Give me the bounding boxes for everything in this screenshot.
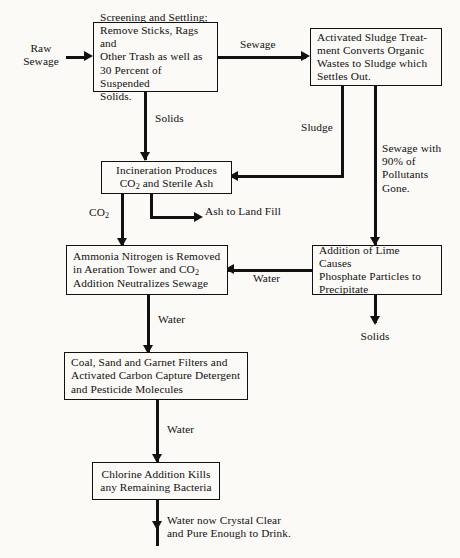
box-incineration-text: Incineration ProducesCO2 and Sterile Ash <box>102 164 231 191</box>
arrowhead-final-output <box>152 521 162 530</box>
box-activated-sludge[interactable]: Activated Sludge Treat- ment Converts Or… <box>310 28 442 86</box>
label-solids-from-lime: Solids <box>348 330 402 343</box>
box-ammonia-nitrogen[interactable]: Ammonia Nitrogen is Removedin Aeration T… <box>66 245 228 295</box>
connector-water-chlorine <box>156 400 159 462</box>
box-screening-and-settling[interactable]: Screening and Settling; Remove Sticks, R… <box>93 22 218 92</box>
box-chlorine[interactable]: Chlorine Addition Kills any Remaining Ba… <box>92 462 220 500</box>
arrowhead-ash <box>194 212 203 222</box>
connector-ash-horizontal <box>150 216 198 219</box>
flowchart-diagram: Screening and Settling; Remove Sticks, R… <box>0 0 460 558</box>
box-screening-text: Screening and Settling; Remove Sticks, R… <box>94 11 217 103</box>
box-chlorine-text: Chlorine Addition Kills any Remaining Ba… <box>93 468 219 494</box>
connector-sludge-vertical <box>341 86 344 178</box>
box-activated-sludge-text: Activated Sludge Treat- ment Converts Or… <box>311 31 441 84</box>
label-water-to-chlorine: Water <box>167 423 194 436</box>
arrowhead-raw-sewage <box>84 51 93 61</box>
connector-sewage <box>218 56 306 59</box>
label-solids-screening: Solids <box>155 112 184 125</box>
arrowhead-sewage <box>301 51 310 61</box>
connector-sewage90 <box>374 86 377 245</box>
box-lime-addition[interactable]: Addition of Lime Causes Phosphate Partic… <box>312 245 442 295</box>
label-water-to-filters: Water <box>158 313 185 326</box>
label-sewage-90-percent: Sewage with 90% of Pollutants Gone. <box>382 142 441 195</box>
label-raw-sewage: Raw Sewage <box>14 42 68 68</box>
box-filters[interactable]: Coal, Sand and Garnet Filters and Activa… <box>64 352 248 400</box>
arrowhead-solids-lime <box>370 316 380 325</box>
connector-sludge-horizontal <box>232 175 344 178</box>
arrowhead-solids-screening <box>140 152 150 161</box>
label-sewage: Sewage <box>240 38 276 51</box>
label-ash-to-land-fill: Ash to Land Fill <box>205 205 281 218</box>
label-water-from-lime: Water <box>253 272 280 285</box>
box-lime-text: Addition of Lime Causes Phosphate Partic… <box>313 244 441 297</box>
label-co2: CO2 <box>89 206 109 220</box>
box-ammonia-text: Ammonia Nitrogen is Removedin Aeration T… <box>67 250 227 291</box>
label-final-output: Water now Crystal Clear and Pure Enough … <box>167 514 291 540</box>
box-incineration[interactable]: Incineration ProducesCO2 and Sterile Ash <box>101 161 232 194</box>
box-filters-text: Coal, Sand and Garnet Filters and Activa… <box>65 356 247 396</box>
label-sludge: Sludge <box>301 121 333 134</box>
